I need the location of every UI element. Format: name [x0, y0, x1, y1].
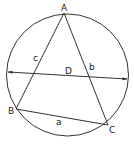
diameter-label: D — [65, 66, 72, 76]
vertex-label-c: C — [109, 125, 115, 135]
vertex-label-b: B — [8, 106, 14, 116]
triangle-circle-diagram: A B C a b c D — [0, 0, 134, 148]
side-c — [16, 13, 64, 109]
side-label-c: c — [33, 53, 38, 63]
side-label-a: a — [56, 117, 62, 127]
vertex-label-a: A — [61, 3, 68, 13]
side-label-b: b — [89, 62, 95, 72]
